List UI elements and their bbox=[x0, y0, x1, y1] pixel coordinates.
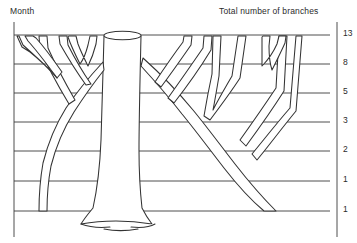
root-flare-right bbox=[131, 224, 155, 227]
tick-label-2: 5 bbox=[343, 87, 357, 96]
tick-label-0: 13 bbox=[343, 29, 357, 38]
branch-left-major bbox=[39, 62, 104, 211]
root-flare-left bbox=[81, 224, 110, 227]
tick-label-1: 8 bbox=[343, 58, 357, 67]
trunk-cut-top bbox=[104, 31, 141, 39]
tree-drawing bbox=[17, 31, 302, 230]
root-flare-mid bbox=[104, 229, 138, 231]
tick-label-3: 3 bbox=[343, 116, 357, 125]
tick-label-5: 1 bbox=[343, 175, 357, 184]
tick-label-4: 2 bbox=[343, 145, 357, 154]
tick-label-6: 1 bbox=[343, 205, 357, 214]
